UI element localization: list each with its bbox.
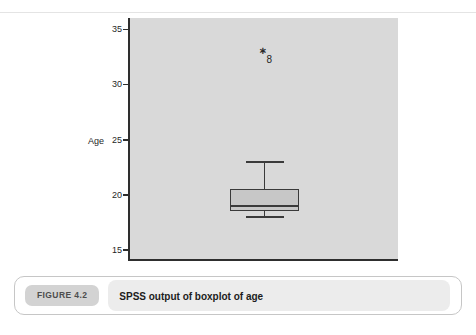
figure-caption-strip: SPSS output of boxplot of age — [108, 280, 450, 311]
y-tick-label: 25 — [96, 134, 122, 146]
y-tick-label: 20 — [96, 189, 122, 201]
y-tick-mark — [123, 29, 128, 31]
y-tick-mark — [123, 139, 128, 141]
outlier-case-label: 8 — [267, 54, 273, 65]
box-iqr — [230, 189, 299, 211]
y-tick-mark — [123, 249, 128, 251]
upper-whisker-line — [264, 162, 266, 190]
upper-whisker-cap — [246, 161, 284, 163]
y-tick-mark — [123, 84, 128, 86]
figure-4-2: Age 1520253035∗8 FIGURE 4.2 SPSS output … — [0, 0, 476, 335]
y-tick-label: 30 — [96, 78, 122, 90]
boxplot-chart: Age 1520253035∗8 — [0, 0, 476, 272]
lower-whisker-cap — [246, 216, 284, 218]
y-tick-mark — [123, 194, 128, 196]
figure-number-badge: FIGURE 4.2 — [25, 285, 99, 306]
figure-caption-text: SPSS output of boxplot of age — [119, 291, 263, 302]
figure-caption-bar: FIGURE 4.2 SPSS output of boxplot of age — [14, 276, 462, 315]
y-tick-label: 35 — [96, 23, 122, 35]
y-tick-label: 15 — [96, 244, 122, 256]
median-line — [231, 205, 298, 207]
